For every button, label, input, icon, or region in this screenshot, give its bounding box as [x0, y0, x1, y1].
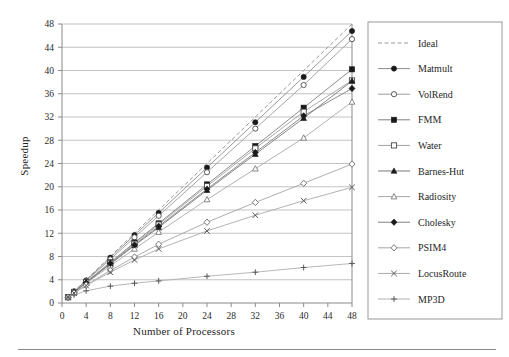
- x-axis-title: Number of Processors: [0, 325, 368, 337]
- svg-text:40: 40: [299, 311, 309, 321]
- svg-text:20: 20: [45, 182, 55, 192]
- svg-text:32: 32: [251, 311, 261, 321]
- data-point: [107, 283, 113, 289]
- data-point: [349, 99, 355, 104]
- svg-text:28: 28: [226, 311, 236, 321]
- data-point: [349, 28, 354, 33]
- legend-label: MP3D: [418, 294, 445, 305]
- svg-text:16: 16: [45, 205, 55, 215]
- legend-label: LocusRoute: [418, 268, 467, 279]
- legend-label: Ideal: [418, 38, 438, 49]
- data-point: [252, 166, 258, 171]
- data-point: [301, 82, 306, 87]
- svg-text:36: 36: [45, 89, 55, 99]
- svg-text:4: 4: [84, 311, 89, 321]
- svg-text:44: 44: [323, 311, 333, 321]
- figure-container: 04812162024283236404448 0481216202428323…: [0, 0, 509, 357]
- svg-text:12: 12: [45, 229, 55, 239]
- data-point: [252, 199, 258, 205]
- svg-text:0: 0: [60, 311, 65, 321]
- data-point: [253, 120, 258, 125]
- data-point: [204, 196, 210, 201]
- data-point: [132, 235, 137, 240]
- data-point: [349, 261, 355, 267]
- data-point: [349, 37, 354, 42]
- svg-text:40: 40: [45, 66, 55, 76]
- svg-text:8: 8: [49, 252, 54, 262]
- svg-text:20: 20: [178, 311, 188, 321]
- data-point: [301, 198, 307, 204]
- chart-legend: IdealMatmultVolRendFMMWaterBarnes-HutRad…: [368, 22, 502, 319]
- data-point: [349, 85, 355, 91]
- figure-bottom-rule: [18, 349, 496, 350]
- data-point: [301, 265, 307, 271]
- legend-marker: [391, 92, 396, 97]
- legend-label: Matmult: [418, 63, 453, 74]
- data-point: [253, 126, 258, 131]
- data-point: [349, 161, 355, 167]
- svg-text:48: 48: [347, 311, 357, 321]
- gridlines: [62, 24, 352, 280]
- svg-text:4: 4: [49, 275, 54, 285]
- data-point: [253, 212, 259, 218]
- legend-label: Water: [418, 140, 442, 151]
- svg-text:28: 28: [45, 136, 55, 146]
- y-tick-labels: 04812162024283236404448: [45, 19, 63, 308]
- data-point: [132, 280, 138, 286]
- data-point: [204, 170, 209, 175]
- svg-text:44: 44: [45, 43, 55, 53]
- legend-label: Radiosity: [418, 191, 456, 202]
- legend-marker: [391, 143, 396, 148]
- legend-label: FMM: [418, 114, 441, 125]
- svg-text:0: 0: [49, 298, 54, 308]
- data-point: [301, 135, 307, 140]
- svg-text:12: 12: [130, 311, 140, 321]
- legend-marker: [391, 66, 396, 71]
- y-axis-title: Speedup: [18, 126, 30, 186]
- svg-text:32: 32: [45, 112, 55, 122]
- legend-label: PSIM4: [418, 242, 446, 253]
- svg-text:16: 16: [154, 311, 164, 321]
- data-point: [349, 67, 354, 72]
- svg-text:36: 36: [275, 311, 285, 321]
- x-tick-labels: 04812162024283236404448: [60, 303, 357, 321]
- svg-text:24: 24: [45, 159, 55, 169]
- svg-text:8: 8: [108, 311, 113, 321]
- data-point: [204, 273, 210, 279]
- svg-text:24: 24: [202, 311, 212, 321]
- data-point: [301, 74, 306, 79]
- data-point: [301, 180, 307, 186]
- data-point: [252, 269, 258, 275]
- legend-label: VolRend: [418, 89, 453, 100]
- data-point: [156, 278, 162, 284]
- legend-label: Barnes-Hut: [418, 166, 464, 177]
- data-point: [204, 219, 210, 225]
- data-point: [156, 213, 161, 218]
- data-point: [83, 288, 89, 294]
- data-series-layer: [65, 24, 355, 300]
- legend-marker: [391, 117, 396, 122]
- speedup-line-chart: 04812162024283236404448 0481216202428323…: [0, 0, 509, 357]
- legend-label: Cholesky: [418, 217, 456, 228]
- svg-text:48: 48: [45, 19, 55, 29]
